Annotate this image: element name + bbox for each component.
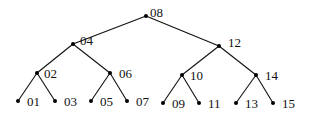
- tree-node-01: 01: [16, 94, 40, 109]
- node-label: 13: [245, 96, 258, 111]
- tree-edge-04-06: [73, 44, 110, 73]
- tree-node-02: 02: [35, 66, 57, 81]
- node-dot: [16, 99, 20, 103]
- node-dot: [53, 99, 57, 103]
- tree-edge-12-14: [219, 46, 256, 75]
- node-dot: [217, 44, 221, 48]
- tree-node-15: 15: [271, 96, 295, 111]
- tree-edges: [18, 16, 273, 103]
- node-dot: [89, 99, 93, 103]
- tree-edge-08-12: [146, 16, 219, 46]
- node-label: 04: [80, 33, 94, 48]
- tree-nodes: 080412020610140103050709111315: [16, 5, 295, 111]
- node-label: 15: [282, 96, 295, 111]
- node-label: 08: [150, 5, 163, 20]
- tree-node-08: 08: [144, 5, 163, 20]
- tree-node-03: 03: [53, 94, 77, 109]
- node-label: 06: [119, 66, 133, 81]
- tree-node-14: 14: [254, 68, 279, 83]
- tree-node-09: 09: [161, 96, 185, 111]
- node-dot: [144, 14, 148, 18]
- node-label: 01: [27, 94, 40, 109]
- node-dot: [271, 101, 275, 105]
- node-label: 14: [265, 68, 279, 83]
- node-label: 03: [64, 94, 77, 109]
- node-label: 02: [44, 66, 57, 81]
- node-dot: [125, 99, 129, 103]
- node-label: 12: [228, 35, 241, 50]
- node-label: 07: [136, 94, 150, 109]
- node-label: 11: [208, 96, 221, 111]
- node-dot: [254, 73, 258, 77]
- node-dot: [108, 71, 112, 75]
- node-dot: [197, 101, 201, 105]
- node-dot: [35, 71, 39, 75]
- tree-node-07: 07: [125, 94, 150, 109]
- tree-node-11: 11: [197, 96, 221, 111]
- tree-node-05: 05: [89, 94, 113, 109]
- tree-node-06: 06: [108, 66, 133, 81]
- node-label: 05: [100, 94, 113, 109]
- node-dot: [234, 101, 238, 105]
- node-dot: [180, 73, 184, 77]
- node-label: 09: [172, 96, 185, 111]
- node-dot: [161, 101, 165, 105]
- tree-node-13: 13: [234, 96, 258, 111]
- node-dot: [71, 42, 75, 46]
- tree-node-10: 10: [180, 68, 203, 83]
- node-label: 10: [190, 68, 203, 83]
- binary-tree-diagram: 080412020610140103050709111315: [0, 0, 310, 117]
